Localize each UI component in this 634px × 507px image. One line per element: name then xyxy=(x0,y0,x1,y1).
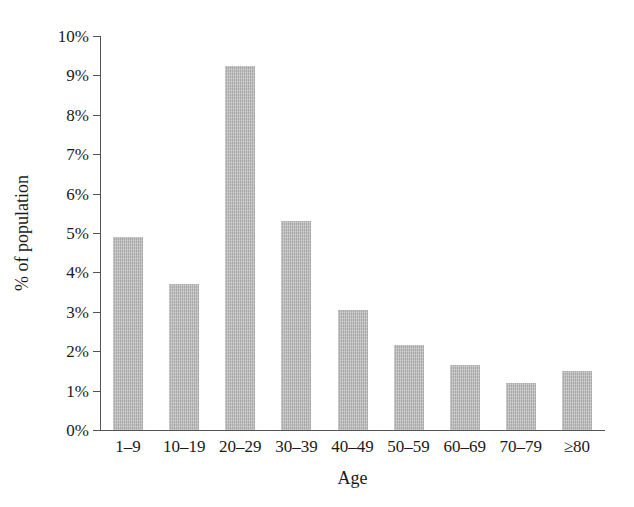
y-axis-tick-mark xyxy=(93,351,100,352)
x-axis-tick-label: 1–9 xyxy=(115,438,141,455)
y-axis-tick-label: 0% xyxy=(66,422,89,439)
y-axis-tick-mark xyxy=(93,194,100,195)
x-axis-tick-label: ≥80 xyxy=(564,438,590,455)
y-axis-tick-mark xyxy=(93,154,100,155)
x-axis-title: Age xyxy=(100,468,605,489)
bar xyxy=(169,284,199,430)
y-axis-tick-mark xyxy=(93,36,100,37)
y-axis-tick-label: 7% xyxy=(66,146,89,163)
bar xyxy=(338,310,368,430)
y-axis-tick-label: 3% xyxy=(66,303,89,320)
x-axis-tick-label: 10–19 xyxy=(163,438,206,455)
x-axis-tick-label: 70–79 xyxy=(500,438,543,455)
bar-chart-figure: % of population 0%1%2%3%4%5%6%7%8%9%10% … xyxy=(0,0,634,507)
x-axis-tick-label: 60–69 xyxy=(443,438,486,455)
y-axis-tick-label: 10% xyxy=(58,28,89,45)
y-axis-title: % of population xyxy=(8,36,36,430)
x-axis-line xyxy=(100,430,605,431)
x-axis-tick-label: 30–39 xyxy=(275,438,318,455)
y-axis-tick-label: 4% xyxy=(66,264,89,281)
x-axis-tick-label: 40–49 xyxy=(331,438,374,455)
y-axis-tick-mark xyxy=(93,391,100,392)
y-axis-tick-mark xyxy=(93,430,100,431)
bar xyxy=(450,365,480,430)
y-axis-tick-mark xyxy=(93,233,100,234)
y-axis-tick-label: 2% xyxy=(66,343,89,360)
y-axis-tick-label: 9% xyxy=(66,67,89,84)
y-axis-tick-label: 5% xyxy=(66,225,89,242)
y-axis-tick-label: 6% xyxy=(66,185,89,202)
y-axis-tick-mark xyxy=(93,312,100,313)
bar xyxy=(394,345,424,430)
y-axis-tick-label: 8% xyxy=(66,106,89,123)
bar xyxy=(113,237,143,430)
plot-area: 0%1%2%3%4%5%6%7%8%9%10% xyxy=(100,36,605,430)
y-axis-tick-mark xyxy=(93,272,100,273)
y-axis-tick-label: 1% xyxy=(66,382,89,399)
x-axis-tick-label: 20–29 xyxy=(219,438,262,455)
bar xyxy=(281,221,311,430)
bar xyxy=(506,383,536,430)
bar xyxy=(225,66,255,430)
x-axis-tick-label: 50–59 xyxy=(387,438,430,455)
bar-series xyxy=(100,36,605,430)
y-axis-tick-mark xyxy=(93,75,100,76)
y-axis-tick-mark xyxy=(93,115,100,116)
bar xyxy=(562,371,592,430)
